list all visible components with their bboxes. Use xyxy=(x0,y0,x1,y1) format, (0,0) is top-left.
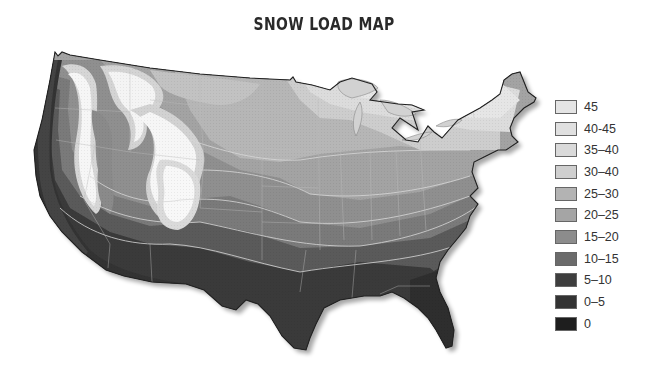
legend-label: 40-45 xyxy=(584,122,616,136)
legend-label: 15–20 xyxy=(584,230,619,244)
legend-swatch xyxy=(555,252,577,266)
legend-swatch xyxy=(555,317,577,331)
legend-label: 35–40 xyxy=(584,143,619,157)
legend-swatch xyxy=(555,122,577,136)
legend: 45 40-45 35–40 30–40 25–30 20–25 15–20 1… xyxy=(555,96,619,335)
legend-label: 10–15 xyxy=(584,252,619,266)
legend-item: 5–10 xyxy=(555,270,619,292)
legend-label: 45 xyxy=(584,100,598,114)
legend-label: 5–10 xyxy=(584,273,612,287)
legend-label: 25–30 xyxy=(584,187,619,201)
legend-label: 30–40 xyxy=(584,165,619,179)
legend-swatch xyxy=(555,165,577,179)
legend-swatch xyxy=(555,187,577,201)
legend-swatch xyxy=(555,295,577,309)
legend-swatch xyxy=(555,100,577,114)
legend-item: 10–15 xyxy=(555,248,619,270)
us-snow-load-map xyxy=(0,0,648,372)
legend-swatch xyxy=(555,273,577,287)
legend-swatch xyxy=(555,230,577,244)
legend-label: 0–5 xyxy=(584,295,605,309)
legend-item: 30–40 xyxy=(555,161,619,183)
legend-item: 15–20 xyxy=(555,226,619,248)
legend-swatch xyxy=(555,143,577,157)
legend-item: 45 xyxy=(555,96,619,118)
legend-label: 0 xyxy=(584,317,591,331)
legend-item: 25–30 xyxy=(555,183,619,205)
legend-swatch xyxy=(555,208,577,222)
legend-label: 20–25 xyxy=(584,208,619,222)
legend-item: 0–5 xyxy=(555,291,619,313)
legend-item: 35–40 xyxy=(555,139,619,161)
legend-item: 20–25 xyxy=(555,204,619,226)
legend-item: 0 xyxy=(555,313,619,335)
legend-item: 40-45 xyxy=(555,118,619,140)
